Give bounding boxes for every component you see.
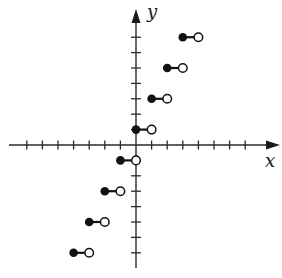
- step-segment: [147, 95, 171, 104]
- closed-dot-icon: [116, 156, 125, 165]
- step-segment: [116, 156, 140, 165]
- step-function-chart: y x: [0, 0, 282, 278]
- closed-dot-icon: [179, 33, 188, 42]
- step-segment: [101, 187, 125, 196]
- y-axis-arrow-icon: [132, 9, 141, 23]
- open-dot-icon: [116, 187, 125, 196]
- closed-dot-icon: [101, 187, 110, 196]
- x-axis-arrow-icon: [266, 141, 280, 150]
- open-dot-icon: [85, 249, 94, 258]
- closed-dot-icon: [132, 125, 141, 134]
- open-dot-icon: [194, 33, 203, 42]
- y-axis-label: y: [146, 1, 158, 22]
- closed-dot-icon: [85, 218, 94, 227]
- open-dot-icon: [132, 156, 141, 165]
- closed-dot-icon: [147, 95, 156, 104]
- open-dot-icon: [179, 64, 188, 73]
- open-dot-icon: [147, 125, 156, 134]
- step-segment: [179, 33, 203, 42]
- step-segment: [163, 64, 187, 73]
- x-axis-label: x: [265, 150, 275, 171]
- open-dot-icon: [163, 95, 172, 104]
- closed-dot-icon: [69, 249, 78, 258]
- closed-dot-icon: [163, 64, 172, 73]
- step-segment: [85, 218, 109, 227]
- step-segment: [69, 249, 93, 258]
- step-segment: [132, 125, 156, 134]
- open-dot-icon: [101, 218, 110, 227]
